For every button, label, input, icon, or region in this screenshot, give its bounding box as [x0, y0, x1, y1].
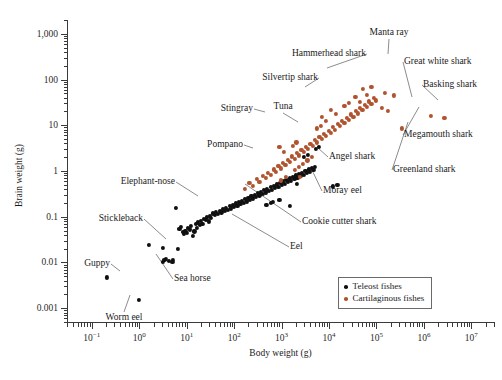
data-point-teleost — [271, 199, 275, 203]
data-point-cart — [365, 105, 369, 109]
y-tick-label-6: 0.001 — [0, 303, 58, 313]
data-point-teleost — [207, 219, 211, 223]
data-point-cart — [305, 158, 309, 162]
annotation-elephant-nose: Elephant-nose — [121, 176, 175, 186]
axis-tick — [64, 149, 68, 150]
axis-tick — [64, 178, 68, 179]
axis-tick — [64, 294, 68, 295]
axis-tick — [132, 323, 133, 327]
axis-tick — [64, 98, 68, 99]
axis-tick — [81, 323, 82, 327]
axis-tick — [64, 249, 68, 250]
axis-tick — [64, 270, 68, 271]
data-point-cart — [297, 153, 301, 157]
axis-tick — [61, 217, 67, 218]
axis-tick — [64, 318, 68, 319]
y-tick-label-2: 10 — [0, 120, 58, 130]
axis-tick — [64, 224, 68, 225]
data-point-cart — [392, 93, 396, 97]
axis-tick — [125, 323, 126, 327]
data-point-cart — [333, 127, 337, 131]
data-point-cart — [251, 183, 255, 187]
axis-tick — [64, 315, 68, 316]
axis-tick — [64, 273, 68, 274]
axis-tick — [64, 173, 68, 174]
axis-tick — [327, 323, 328, 327]
data-point-teleost — [175, 247, 179, 251]
data-point-teleost — [171, 258, 175, 262]
data-point-cart — [365, 92, 369, 96]
leader-line — [176, 182, 198, 196]
axis-tick — [64, 139, 68, 140]
x-tick-label-2: 101 — [180, 331, 193, 343]
data-point-cart — [361, 87, 365, 91]
axis-tick — [73, 323, 74, 327]
data-point-cart — [360, 108, 364, 112]
leader-line — [244, 145, 253, 148]
data-point-cart — [338, 124, 342, 128]
y-tick-label-4: 0.1 — [0, 212, 58, 222]
data-point-teleost — [185, 231, 189, 235]
data-point-teleost — [316, 145, 320, 149]
axis-tick — [182, 323, 183, 327]
axis-tick — [64, 130, 68, 131]
axis-tick — [64, 52, 68, 53]
axis-tick — [201, 323, 202, 327]
annotation-sea-horse: Sea horse — [174, 273, 211, 283]
annotation-greenland-shark: Greenland shark — [393, 164, 456, 174]
y-axis-label: Brain weight (g) — [14, 144, 24, 207]
axis-tick — [64, 135, 68, 136]
axis-tick — [61, 308, 67, 309]
data-point-cart — [263, 176, 267, 180]
axis-tick — [64, 87, 68, 88]
data-point-cart — [369, 85, 373, 89]
axis-tick — [64, 84, 68, 85]
axis-tick — [452, 323, 453, 327]
axis-tick — [391, 323, 392, 327]
data-point-cart — [315, 140, 319, 144]
axis-tick — [92, 323, 93, 329]
data-point-cart — [298, 175, 302, 179]
data-point-teleost — [295, 182, 299, 186]
y-tick-label-1: 100 — [0, 75, 58, 85]
x-tick-label-7: 106 — [417, 331, 430, 343]
annotation-hammerhead-shark: Hammerhead shark — [292, 48, 366, 58]
data-point-cart — [357, 99, 361, 103]
axis-tick — [457, 323, 458, 327]
data-point-cart — [315, 126, 319, 130]
data-point-teleost — [200, 221, 204, 225]
axis-tick — [64, 313, 68, 314]
legend-marker-cart — [344, 297, 348, 301]
data-point-cart — [380, 106, 384, 110]
axis-tick — [61, 80, 67, 81]
axis-tick — [296, 323, 297, 327]
x-tick-label-3: 102 — [228, 331, 241, 343]
axis-tick — [64, 185, 68, 186]
axis-tick — [232, 323, 233, 327]
axis-tick — [279, 323, 280, 327]
axis-tick — [447, 323, 448, 327]
axis-tick — [257, 323, 258, 327]
axis-tick — [61, 171, 67, 172]
data-point-cart — [324, 119, 328, 123]
axis-tick — [168, 323, 169, 327]
axis-tick — [64, 58, 68, 59]
axis-tick — [64, 227, 68, 228]
data-point-cart — [306, 147, 310, 151]
data-point-cart — [334, 112, 338, 116]
axis-tick — [413, 323, 414, 327]
axis-tick — [315, 323, 316, 327]
axis-tick — [277, 323, 278, 327]
axis-tick — [64, 175, 68, 176]
axis-tick — [329, 323, 330, 329]
data-point-cart — [288, 160, 292, 164]
legend-label-teleost: Teleost fishes — [353, 281, 402, 293]
axis-tick — [271, 323, 272, 327]
data-point-cart — [293, 168, 297, 172]
axis-tick — [139, 323, 140, 329]
data-point-cart — [297, 165, 301, 169]
axis-tick — [187, 323, 188, 329]
axis-tick — [209, 323, 210, 327]
axis-tick — [78, 323, 79, 327]
axis-tick — [114, 323, 115, 327]
